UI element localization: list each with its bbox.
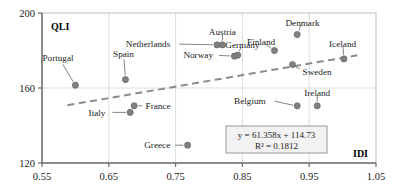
data-point-label: Greece	[144, 140, 170, 150]
x-tick-label: 0.85	[233, 171, 251, 182]
scatter-plot: 1201602000.550.650.750.850.951.05QLIIDIP…	[0, 0, 393, 194]
y-tick-label: 120	[19, 158, 35, 169]
data-point-marker[interactable]	[314, 103, 320, 109]
y-tick-label: 200	[19, 8, 35, 19]
data-point-label: Iceland	[329, 39, 356, 49]
data-point-marker[interactable]	[72, 82, 78, 88]
trendline-equation: y = 61.358x + 114.73	[238, 130, 316, 140]
data-point-label: Spain	[113, 49, 134, 59]
data-point-label: Netherlands	[126, 39, 171, 49]
chart-container: 1201602000.550.650.750.850.951.05QLIIDIP…	[0, 0, 393, 194]
data-point-marker[interactable]	[185, 142, 191, 148]
x-tick-label: 0.95	[300, 171, 318, 182]
data-point-label: Belgium	[234, 96, 266, 106]
trendline-r-squared: R² = 0.1812	[255, 141, 298, 151]
data-point-marker[interactable]	[127, 109, 133, 115]
y-axis-title: QLI	[51, 21, 69, 32]
data-point-label: Norway	[183, 50, 213, 60]
data-point-marker[interactable]	[131, 103, 137, 109]
y-tick-label: 160	[19, 83, 35, 94]
x-tick-label: 1.05	[367, 171, 385, 182]
data-point-marker[interactable]	[289, 61, 295, 67]
data-point-label: Denmark	[285, 18, 320, 28]
x-tick-label: 0.65	[100, 171, 118, 182]
data-point-label: Austria	[209, 27, 236, 37]
data-point-marker[interactable]	[122, 76, 128, 82]
data-point-marker[interactable]	[341, 56, 347, 62]
x-tick-label: 0.75	[166, 171, 184, 182]
data-point-label: Finland	[247, 37, 275, 47]
data-point-marker[interactable]	[294, 31, 300, 37]
x-axis-title: IDI	[353, 148, 368, 159]
data-point-label: France	[146, 101, 171, 111]
data-point-label: Italy	[89, 108, 106, 118]
data-point-label: Portugal	[42, 53, 74, 63]
data-point-marker[interactable]	[235, 52, 241, 58]
data-point-marker[interactable]	[271, 47, 277, 53]
data-point-label: Sweden	[303, 67, 332, 77]
data-point-label: Ireland	[304, 88, 330, 98]
x-tick-label: 0.55	[33, 171, 51, 182]
data-point-marker[interactable]	[294, 103, 300, 109]
